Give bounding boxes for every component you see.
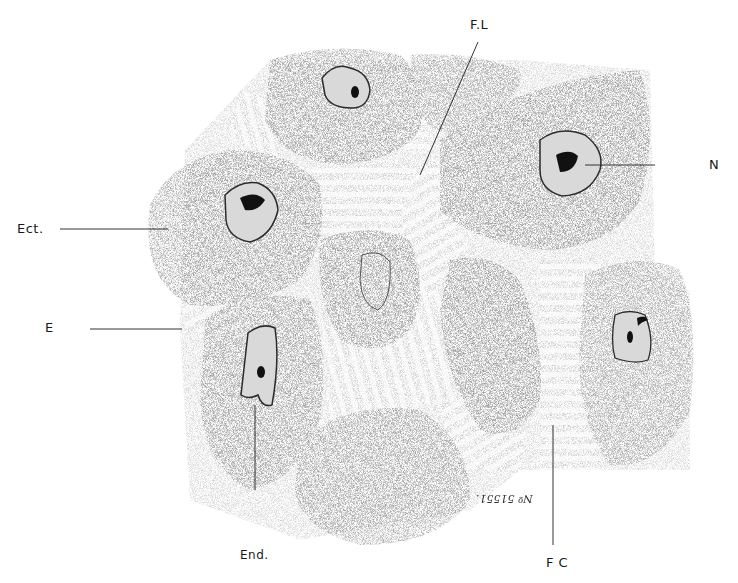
illustration-canvas <box>0 0 738 583</box>
label-n: N <box>709 157 719 172</box>
cell-illustration: F.L N Ect. E End. F C Nº 51551. <box>0 0 738 583</box>
label-e: E <box>45 320 54 335</box>
label-ect: Ect. <box>17 221 44 236</box>
chromatin-far-right-1 <box>627 331 633 343</box>
label-fl: F.L <box>470 17 488 32</box>
label-end: End. <box>240 548 269 562</box>
label-fc: F C <box>546 555 568 570</box>
plate-reference-number: Nº 51551. <box>476 492 533 505</box>
chromatin-top <box>351 86 359 98</box>
chromatin-lower-left <box>257 366 265 378</box>
